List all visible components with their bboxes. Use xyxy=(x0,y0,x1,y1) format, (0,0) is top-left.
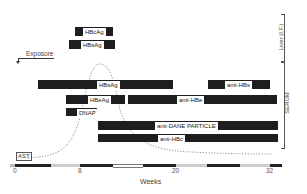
exposure-label: Exposure xyxy=(26,50,53,57)
axis-segment xyxy=(207,164,240,167)
axis-segment xyxy=(176,164,207,167)
x-axis-label: Weeks xyxy=(140,178,161,185)
bar-label: anti-HBs xyxy=(225,81,252,90)
anti-hbs-bar: anti-HBs xyxy=(208,80,270,89)
anti-hbc-bar: anti-HBc xyxy=(98,134,278,142)
dnap-bar: DNAP xyxy=(66,108,97,116)
bar-label: HBeAg xyxy=(88,96,111,105)
tick-32: 32 xyxy=(266,167,273,174)
axis-segment xyxy=(80,164,113,167)
bar-label: anti-DANE PARTICLE xyxy=(155,122,218,131)
liver-hbcag-bar: HBcAg xyxy=(75,27,113,36)
arrow-down-icon xyxy=(16,61,20,64)
anti-hbe-bar: anti-HBe xyxy=(128,95,277,104)
bar-label: anti-HBc xyxy=(158,135,185,144)
bar-label: HBcAg xyxy=(83,28,106,37)
bar-label: HBsAg xyxy=(97,81,120,90)
bar-label: DNAP xyxy=(77,109,98,118)
axis-segment xyxy=(51,164,80,167)
exposure-line xyxy=(18,58,54,59)
liver-hbsag-bar: HBsAg xyxy=(69,40,115,49)
ast-label: AST xyxy=(16,152,32,161)
bar-label: anti-HBe xyxy=(177,96,204,105)
hbeag-bar: HBeAg xyxy=(66,95,125,104)
axis-segment xyxy=(113,164,143,168)
liver-label: Liver (I.F.) xyxy=(278,24,284,51)
tick-8: 8 xyxy=(78,167,82,174)
serum-hbsag-bar: HBsAg xyxy=(38,80,173,89)
tick-0: 0 xyxy=(13,167,17,174)
serum-label: SERUM xyxy=(284,92,290,114)
tick-20: 20 xyxy=(172,167,179,174)
axis-segment xyxy=(15,164,51,167)
anti-dane-particle-bar: anti-DANE PARTICLE xyxy=(98,121,278,130)
bar-label: HBsAg xyxy=(81,41,104,50)
